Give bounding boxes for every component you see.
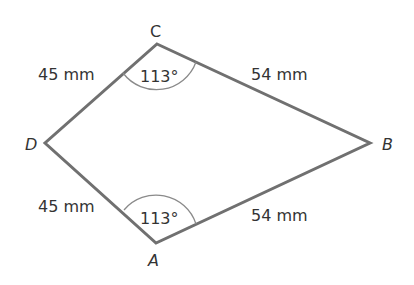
vertex-label-c: C bbox=[150, 22, 161, 41]
angle-label-a: 113° bbox=[140, 209, 179, 228]
vertex-label-a: A bbox=[147, 251, 159, 270]
angle-label-c: 113° bbox=[140, 67, 179, 86]
vertex-label-d: D bbox=[25, 135, 37, 154]
vertex-label-b: B bbox=[382, 135, 393, 154]
side-label-da: 45 mm bbox=[38, 197, 95, 216]
side-label-cb: 54 mm bbox=[251, 65, 308, 84]
kite-svg: 45 mm 54 mm 45 mm 54 mm 113° 113° C B D … bbox=[0, 0, 414, 285]
side-label-cd: 45 mm bbox=[38, 65, 95, 84]
kite-diagram: 45 mm 54 mm 45 mm 54 mm 113° 113° C B D … bbox=[0, 0, 414, 285]
side-label-ab: 54 mm bbox=[251, 206, 308, 225]
